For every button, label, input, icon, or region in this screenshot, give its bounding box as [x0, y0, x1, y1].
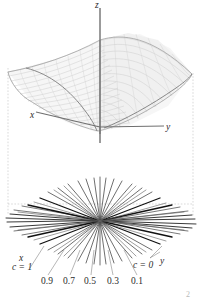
contour-tick-4: 0.1 — [131, 276, 143, 286]
surface-3d — [8, 8, 192, 143]
contour-label-c0: c = 0 — [133, 260, 153, 270]
figure-canvas — [0, 0, 201, 303]
contour-label-c1: c = 1 — [12, 262, 32, 272]
y-axis-label: y — [166, 122, 170, 132]
contour-plot — [6, 177, 196, 275]
contour-y-label: y — [160, 256, 164, 266]
corner-mark: 2 — [186, 290, 190, 299]
z-axis-label: z — [95, 0, 99, 10]
contour-tick-1: 0.7 — [63, 276, 75, 286]
figure-container: z x y x y c = 1 c = 0 0.9 0.7 0.5 0.3 0.… — [0, 0, 201, 303]
contour-tick-2: 0.5 — [84, 276, 96, 286]
x-axis-label: x — [30, 110, 34, 120]
contour-tick-3: 0.3 — [107, 276, 119, 286]
contour-tick-0: 0.9 — [41, 276, 53, 286]
